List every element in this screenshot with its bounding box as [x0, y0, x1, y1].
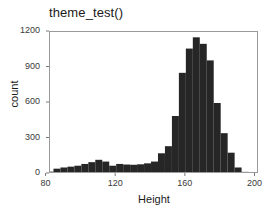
- histogram-bar: [88, 162, 95, 173]
- histogram-bar: [144, 163, 151, 173]
- histogram-bar: [207, 60, 214, 173]
- histogram-bar: [235, 167, 242, 173]
- histogram-bar: [214, 103, 221, 173]
- x-axis-tick-labels: 80120160200: [0, 178, 275, 192]
- histogram-bar: [53, 169, 60, 173]
- histogram-bar: [81, 164, 88, 173]
- histogram-bar: [60, 167, 67, 173]
- histogram-bar: [158, 153, 165, 173]
- histogram-bar: [228, 153, 235, 173]
- y-tick-label: 600: [4, 96, 40, 106]
- histogram-bar: [193, 37, 200, 173]
- histogram-bar: [186, 49, 193, 173]
- histogram-bar: [242, 172, 249, 173]
- histogram-bars: [50, 32, 258, 173]
- histogram-chart: theme_test() count Height 03006009001200…: [0, 0, 275, 214]
- histogram-bar: [74, 166, 81, 173]
- histogram-bar: [116, 164, 123, 173]
- histogram-bar: [50, 172, 53, 173]
- y-tick-label: 0: [4, 167, 40, 177]
- histogram-bar: [179, 73, 186, 173]
- histogram-bar: [200, 44, 207, 173]
- y-tick-label: 300: [4, 132, 40, 142]
- x-tick-label: 200: [235, 178, 275, 188]
- histogram-bar: [172, 116, 179, 173]
- histogram-bar: [67, 167, 74, 173]
- histogram-bar: [130, 165, 137, 173]
- histogram-bar: [95, 160, 102, 173]
- y-tick-label: 900: [4, 61, 40, 71]
- plot-panel: [49, 31, 258, 173]
- y-tick-label: 1200: [4, 25, 40, 35]
- histogram-bar: [123, 165, 130, 173]
- histogram-bar: [102, 162, 109, 173]
- x-tick-label: 160: [165, 178, 205, 188]
- x-axis-title: Height: [49, 193, 259, 205]
- x-tick-label: 80: [26, 178, 66, 188]
- histogram-bar: [165, 146, 172, 173]
- chart-title: theme_test(): [49, 5, 123, 20]
- histogram-bar: [151, 162, 158, 173]
- x-tick-label: 120: [95, 178, 135, 188]
- histogram-bar: [221, 133, 228, 173]
- histogram-bar: [109, 166, 116, 173]
- histogram-bar: [137, 164, 144, 173]
